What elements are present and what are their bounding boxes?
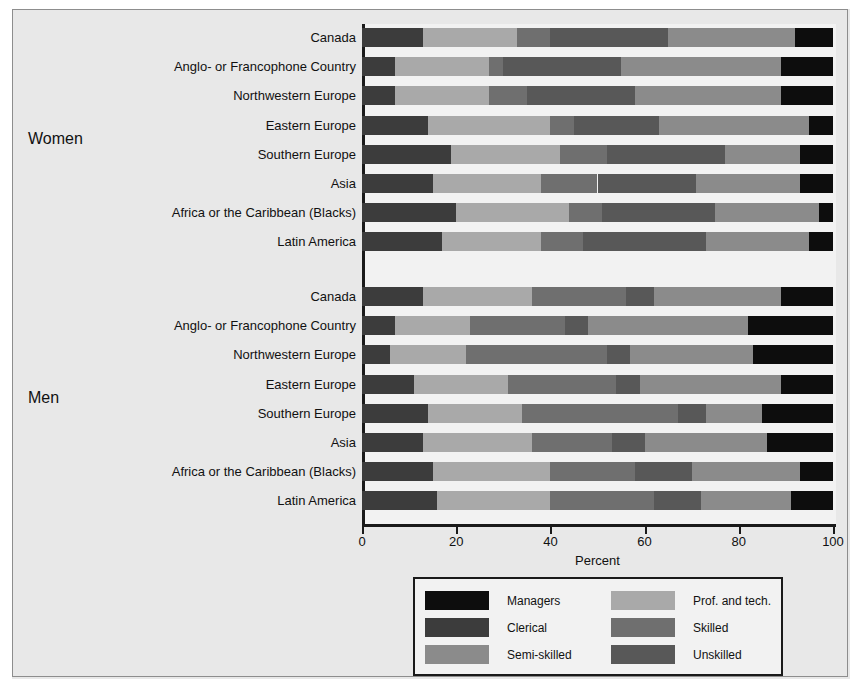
legend-column-right: Prof. and tech.SkilledUnskilled bbox=[611, 587, 771, 668]
bar-segment-managers bbox=[762, 404, 833, 423]
bar-row bbox=[362, 404, 833, 423]
chart-page: 020406080100 CanadaAnglo- or Francophone… bbox=[0, 0, 860, 687]
bar-segment-skilled bbox=[541, 232, 583, 251]
tick-20 bbox=[456, 527, 458, 534]
bar-segment-skilled bbox=[489, 86, 527, 105]
tick-label-0: 0 bbox=[342, 534, 382, 549]
category-label-text: Africa or the Caribbean (Blacks) bbox=[56, 462, 356, 481]
bar-row bbox=[362, 57, 833, 76]
bar-segment-prof-and-tech bbox=[437, 491, 550, 510]
category-label: Canada bbox=[48, 287, 356, 306]
legend-swatch bbox=[611, 645, 675, 664]
bar-segment-prof-and-tech bbox=[395, 316, 470, 335]
bar-segment-managers bbox=[795, 28, 833, 47]
category-label: Canada bbox=[48, 28, 356, 47]
bar-row bbox=[362, 345, 833, 364]
bar-segment-skilled bbox=[550, 491, 654, 510]
bar-segment-unskilled bbox=[583, 232, 705, 251]
bar-segment-unskilled bbox=[616, 375, 640, 394]
bar-segment-skilled bbox=[532, 287, 626, 306]
bar-segment-skilled bbox=[569, 203, 602, 222]
category-label: Asia bbox=[48, 433, 356, 452]
bar-segment-skilled bbox=[466, 345, 607, 364]
legend-item: Prof. and tech. bbox=[611, 587, 771, 614]
category-label-text: Northwestern Europe bbox=[56, 86, 356, 105]
category-label: Latin America bbox=[48, 232, 356, 251]
bar-segment-semi-skilled bbox=[635, 86, 781, 105]
legend-swatch bbox=[611, 591, 675, 610]
bar-segment-unskilled bbox=[574, 116, 659, 135]
legend-label: Semi-skilled bbox=[507, 648, 572, 662]
bar-segment-prof-and-tech bbox=[395, 57, 489, 76]
bar-segment-clerical bbox=[362, 404, 428, 423]
legend-swatch bbox=[425, 618, 489, 637]
bar-segment-semi-skilled bbox=[701, 491, 790, 510]
bar-segment-unskilled bbox=[503, 57, 621, 76]
bar-segment-clerical bbox=[362, 287, 423, 306]
category-label: Northwestern Europe bbox=[48, 345, 356, 364]
bar-segment-semi-skilled bbox=[654, 287, 781, 306]
x-axis-title: Percent bbox=[362, 553, 833, 568]
bar-segment-semi-skilled bbox=[706, 404, 763, 423]
x-axis-line bbox=[362, 524, 836, 527]
bar-row bbox=[362, 232, 833, 251]
category-label-text: Africa or the Caribbean (Blacks) bbox=[56, 203, 356, 222]
bar-segment-prof-and-tech bbox=[433, 462, 551, 481]
bar-segment-clerical bbox=[362, 462, 433, 481]
category-label: Anglo- or Francophone Country bbox=[48, 57, 356, 76]
bar-segment-managers bbox=[781, 86, 833, 105]
bar-segment-managers bbox=[800, 145, 833, 164]
category-label-text: Latin America bbox=[56, 491, 356, 510]
bar-segment-unskilled bbox=[550, 28, 668, 47]
bar-segment-semi-skilled bbox=[630, 345, 752, 364]
bar-segment-clerical bbox=[362, 28, 423, 47]
bar-segment-semi-skilled bbox=[715, 203, 819, 222]
legend-label: Managers bbox=[507, 594, 560, 608]
bar-segment-prof-and-tech bbox=[423, 287, 531, 306]
bar-segment-semi-skilled bbox=[621, 57, 781, 76]
bar-segment-skilled bbox=[532, 433, 612, 452]
bar-segment-semi-skilled bbox=[706, 232, 810, 251]
group-label-women: Women bbox=[28, 130, 148, 148]
tick-0 bbox=[362, 527, 364, 534]
bar-segment-clerical bbox=[362, 316, 395, 335]
legend-column-left: ManagersClericalSemi-skilled bbox=[425, 587, 572, 668]
bar-segment-semi-skilled bbox=[640, 375, 781, 394]
bar-row bbox=[362, 145, 833, 164]
bar-segment-unskilled bbox=[612, 433, 645, 452]
bar-segment-unskilled bbox=[654, 491, 701, 510]
group-label-men: Men bbox=[28, 389, 148, 407]
legend-label: Prof. and tech. bbox=[693, 594, 771, 608]
bar-segment-semi-skilled bbox=[696, 174, 800, 193]
bar-segment-unskilled bbox=[607, 345, 631, 364]
category-label-text: Asia bbox=[56, 433, 356, 452]
legend-label: Skilled bbox=[693, 621, 728, 635]
bar-segment-clerical bbox=[362, 345, 390, 364]
bar-row bbox=[362, 433, 833, 452]
bar-segment-semi-skilled bbox=[668, 28, 795, 47]
bar-segment-prof-and-tech bbox=[433, 174, 541, 193]
bar-row bbox=[362, 116, 833, 135]
bar-row bbox=[362, 287, 833, 306]
chart-legend: ManagersClericalSemi-skilled Prof. and t… bbox=[413, 577, 783, 676]
bar-row bbox=[362, 316, 833, 335]
bar-segment-clerical bbox=[362, 57, 395, 76]
legend-swatch bbox=[611, 618, 675, 637]
category-label-text: Anglo- or Francophone Country bbox=[56, 57, 356, 76]
bar-segment-managers bbox=[819, 203, 833, 222]
bar-segment-unskilled bbox=[678, 404, 706, 423]
category-label: Latin America bbox=[48, 491, 356, 510]
bar-segment-skilled bbox=[560, 145, 607, 164]
tick-label-40: 40 bbox=[530, 534, 570, 549]
bar-segment-unskilled bbox=[626, 287, 654, 306]
bar-row bbox=[362, 28, 833, 47]
bar-segment-semi-skilled bbox=[692, 462, 800, 481]
legend-item: Clerical bbox=[425, 614, 572, 641]
bar-row bbox=[362, 375, 833, 394]
bar-segment-clerical bbox=[362, 375, 414, 394]
bar-segment-semi-skilled bbox=[645, 433, 767, 452]
bar-segment-managers bbox=[800, 462, 833, 481]
category-label: Northwestern Europe bbox=[48, 86, 356, 105]
bar-segment-unskilled bbox=[598, 174, 697, 193]
legend-swatch bbox=[425, 645, 489, 664]
